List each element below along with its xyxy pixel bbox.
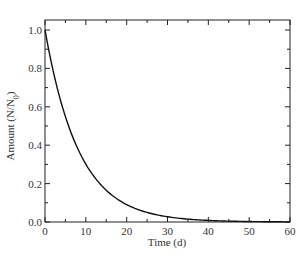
x-tick-label: 60 [285,225,297,237]
x-tick-label: 20 [121,225,133,237]
y-tick-label: 1.0 [28,24,42,36]
y-tick-label: 0.8 [28,62,42,74]
x-tick-label: 0 [42,225,48,237]
axis-ticks [45,20,290,222]
plot-frame [45,20,290,222]
y-tick-labels: 0.00.20.40.60.81.0 [28,24,42,228]
decay-curve [45,30,290,222]
x-tick-label: 10 [80,225,92,237]
plot-border [45,20,290,222]
y-tick-label: 0.2 [28,178,42,190]
y-tick-label: 0.4 [28,139,42,151]
y-tick-label: 0.0 [28,216,42,228]
y-axis-label: Amount (N/N0) [4,91,21,160]
y-tick-label: 0.6 [28,101,42,113]
x-tick-label: 40 [203,225,215,237]
x-axis-label: Time (d) [148,236,187,249]
x-tick-label: 50 [244,225,256,237]
decay-chart: 0102030405060 0.00.20.40.60.81.0 Time (d… [0,0,306,260]
